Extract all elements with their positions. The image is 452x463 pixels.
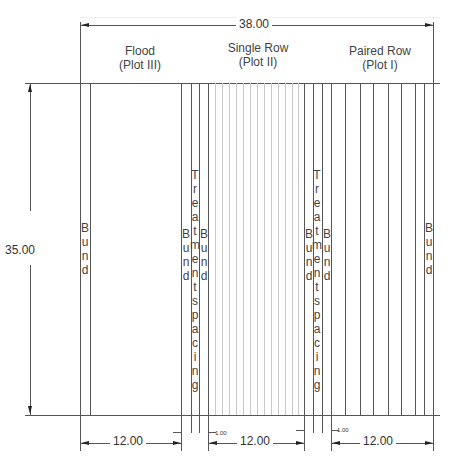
bund-label: Bund xyxy=(322,227,332,283)
height-dim-line-top xyxy=(30,83,31,211)
arrow-left-icon xyxy=(209,441,217,445)
spacing1-label: 1.00 xyxy=(215,430,227,436)
total-width-label: 38.00 xyxy=(236,17,272,31)
crop-row xyxy=(298,83,299,415)
crop-row xyxy=(243,83,244,415)
bund-label: Bund xyxy=(199,227,209,283)
paired-row xyxy=(388,83,389,415)
arrow-up-icon xyxy=(28,84,32,92)
plot-sub: (Plot III) xyxy=(95,58,185,72)
bund-label: Bund xyxy=(424,221,434,277)
plot-sub: (Plot I) xyxy=(330,58,430,72)
total-height-label: 35.00 xyxy=(5,243,35,257)
plot-title-flood: Flood (Plot III) xyxy=(95,44,185,72)
crop-row xyxy=(278,83,279,415)
top-dim-ext-right xyxy=(433,22,434,84)
crop-row xyxy=(271,83,272,415)
arrow-left-icon xyxy=(332,441,340,445)
plot2-width-label: 12.00 xyxy=(237,434,273,448)
bund-line xyxy=(90,83,91,415)
crop-row xyxy=(292,83,293,415)
paired-row xyxy=(345,83,346,415)
crop-row xyxy=(250,83,251,415)
spacing2-label: 1.00 xyxy=(337,427,349,433)
arrow-down-icon xyxy=(28,406,32,414)
paired-row xyxy=(373,83,374,415)
paired-row xyxy=(415,83,416,415)
crop-row xyxy=(236,83,237,415)
crop-row xyxy=(222,83,223,415)
bund-label: Bund xyxy=(80,221,90,277)
crop-row xyxy=(229,83,230,415)
paired-row xyxy=(401,83,402,415)
spacing-dim-left xyxy=(173,432,181,433)
arrow-right-icon xyxy=(296,441,304,445)
arrow-right-icon xyxy=(173,441,181,445)
treatment-spacing-label: Treatmentspacing xyxy=(312,168,322,392)
spacing-dim-left xyxy=(296,430,304,431)
plot-sub: (Plot II) xyxy=(208,55,308,69)
crop-row xyxy=(215,83,216,415)
paired-row xyxy=(360,83,361,415)
crop-row xyxy=(285,83,286,415)
plot3-width-label: 12.00 xyxy=(110,434,146,448)
plot1-width-label: 12.00 xyxy=(360,434,396,448)
plot-name: Flood xyxy=(95,44,185,58)
field-bottom-border xyxy=(25,415,440,416)
top-dim-ext-left xyxy=(80,22,81,84)
arrow-right-icon xyxy=(425,441,433,445)
crop-row xyxy=(264,83,265,415)
field-top-border xyxy=(25,83,440,84)
crop-row xyxy=(257,83,258,415)
arrow-right-icon xyxy=(425,23,433,27)
plot-title-paired-row: Paired Row (Plot I) xyxy=(330,44,430,72)
height-dim-line-bottom xyxy=(30,265,31,415)
plot-name: Paired Row xyxy=(330,44,430,58)
plot-name: Single Row xyxy=(208,41,308,55)
arrow-left-icon xyxy=(81,441,89,445)
plot-title-single-row: Single Row (Plot II) xyxy=(208,41,308,69)
arrow-left-icon xyxy=(81,23,89,27)
